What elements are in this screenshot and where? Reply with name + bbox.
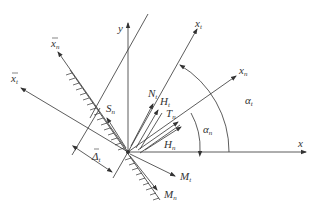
svg-text:Δt: Δt <box>91 150 101 164</box>
label-M-t: Mt <box>179 170 192 184</box>
xn-axis <box>128 76 236 152</box>
xbar-t-axis <box>21 88 128 152</box>
label-S-n: Sn <box>106 102 116 116</box>
label-xbar-t: xt <box>10 72 19 86</box>
surface-hatching <box>66 73 159 200</box>
label-T-n: Tn <box>166 107 176 121</box>
label-xbar-n: xn <box>50 37 60 51</box>
label-y: y <box>117 22 123 34</box>
label-x: x <box>297 137 303 149</box>
diagram-canvas: y x xt xn xn xt Nt Ht Tn Hn Sn Mt Mn αt … <box>0 0 317 214</box>
label-alpha-t: αt <box>245 94 254 108</box>
label-M-n: Mn <box>163 188 177 202</box>
force-H-n <box>145 127 181 150</box>
force-S-n <box>107 118 126 148</box>
origin-point <box>126 150 130 154</box>
xbar-n-axis <box>58 52 128 152</box>
label-H-n: Hn <box>163 138 176 152</box>
angle-alpha-n-arc <box>191 113 200 152</box>
angle-alpha-t-arc <box>180 65 229 152</box>
force-diagram: y x xt xn xn xt Nt Ht Tn Hn Sn Mt Mn αt … <box>0 0 317 214</box>
label-x-t: xt <box>194 17 203 31</box>
svg-text:xn: xn <box>50 37 60 51</box>
label-alpha-n: αn <box>203 123 213 137</box>
svg-text:xt: xt <box>10 72 19 86</box>
label-delta-t: Δt <box>91 149 101 164</box>
label-x-n: xn <box>238 64 248 78</box>
xt-axis <box>128 29 197 152</box>
label-N-t: Nt <box>147 87 158 101</box>
